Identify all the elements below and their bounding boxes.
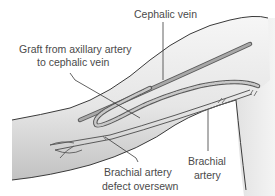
diagram-canvas: Cephalic vein Graft from axillary artery… [0, 0, 275, 196]
label-brachial-defect-line1: Brachial artery [104, 166, 172, 178]
label-brachial-defect-line2: defect oversewn [102, 180, 178, 192]
label-brachial-artery-line1: Brachial [188, 155, 226, 167]
label-cephalic-vein: Cephalic vein [134, 8, 197, 20]
label-graft-line1: Graft from axillary artery [19, 43, 132, 55]
label-graft-line2: to cephalic vein [37, 56, 109, 68]
label-brachial-artery-line2: artery [194, 169, 221, 181]
arm-outline [12, 16, 270, 180]
